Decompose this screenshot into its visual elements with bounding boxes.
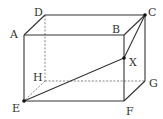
label-B: B	[112, 23, 120, 36]
label-E: E	[12, 102, 20, 115]
label-X: X	[129, 56, 137, 69]
edge-BC	[124, 15, 145, 35]
label-H: H	[33, 71, 43, 84]
point-C	[143, 13, 147, 17]
point-E	[22, 99, 26, 103]
label-C: C	[148, 6, 156, 19]
prism-diagram: D C A B X H G E F	[0, 0, 163, 119]
label-G: G	[149, 77, 158, 90]
edge-FG	[124, 81, 145, 101]
segment-XC	[124, 15, 145, 58]
point-X	[122, 56, 126, 60]
label-D: D	[34, 6, 43, 19]
label-A: A	[9, 28, 19, 41]
label-F: F	[126, 105, 134, 118]
edge-HE	[24, 81, 45, 101]
